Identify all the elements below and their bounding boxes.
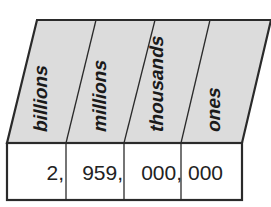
header-label-millions: millions [89,57,110,134]
header-label-thousands: thousands [146,33,167,134]
value-billions: 2, [46,161,64,184]
place-value-chart: billions millions thousands ones 2, 959,… [0,0,271,207]
value-millions: 959, [82,161,123,184]
value-ones: 000 [188,161,223,184]
header-label-ones: ones [203,85,224,134]
header-label-billions: billions [30,63,51,134]
value-thousands: 000, [141,161,182,184]
